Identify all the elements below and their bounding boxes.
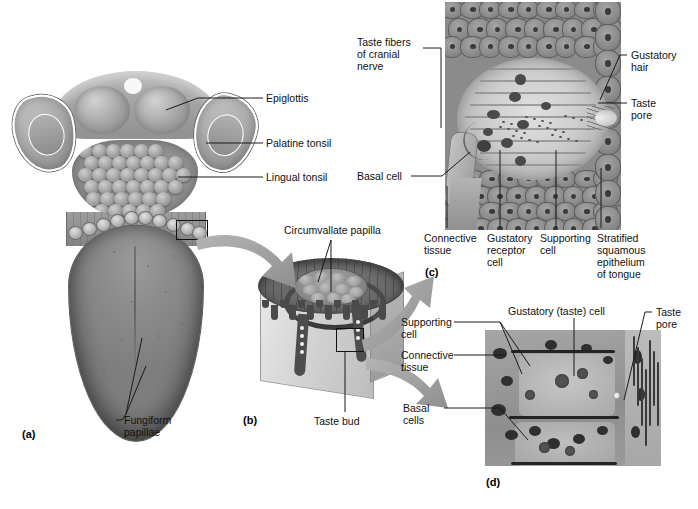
- taste-cell-boundary-0: [485, 68, 581, 70]
- papilla-surface-cell-0: [299, 275, 313, 285]
- palatine-tonsil-left-crypt: [24, 110, 69, 159]
- taste-cell-nucleus-0: [515, 74, 526, 85]
- epithelial-cell-col-7: [595, 180, 621, 207]
- epithelial-cell-col-2: [595, 50, 621, 77]
- micrograph-dark-nucleus-11: [545, 340, 557, 350]
- label-taste-bud: Taste bud: [314, 415, 360, 427]
- label-supporting-cell-d: Supporting cell: [401, 316, 452, 340]
- lingual-tonsil-follicle-27: [168, 180, 183, 194]
- taste-cell-boundary-1: [480, 80, 586, 82]
- micrograph-dark-nucleus-13: [603, 356, 613, 364]
- panel-a-region-of-interest-box: [176, 220, 208, 240]
- taste-bud-dot-0: [300, 326, 304, 330]
- cytoplasmic-granule-1: [510, 123, 513, 125]
- taste-pore-opening: [595, 110, 617, 126]
- label-basal-cell: Basal cell: [357, 170, 402, 182]
- epithelial-cell-col-6: [595, 154, 621, 181]
- epithelium-drip-4: [298, 300, 305, 308]
- circumvallate-papilla-2: [96, 218, 111, 232]
- circumvallate-papilla-6: [152, 214, 167, 228]
- basal-cell: [477, 140, 491, 152]
- taste-cell-nucleus-5: [515, 156, 526, 166]
- label-palatine-tonsil: Palatine tonsil: [266, 137, 331, 149]
- cytoplasmic-granule-9: [528, 139, 531, 141]
- micrograph-dark-nucleus-3: [505, 430, 518, 440]
- micrograph-fiber-1: [637, 347, 639, 406]
- panel-b-papilla-block: [250, 248, 410, 408]
- taste-bud-dot-1: [300, 334, 304, 338]
- micrograph-cell-nucleus-0: [555, 374, 569, 388]
- cytoplasmic-granule-18: [559, 136, 562, 138]
- cytoplasmic-granule-24: [551, 134, 554, 136]
- figure-canvas: Epiglottis Palatine tonsil Lingual tonsi…: [0, 0, 698, 509]
- papilla-surface-cell-6: [335, 284, 349, 294]
- epithelium-drip-7: [325, 305, 332, 320]
- label-lingual-tonsil: Lingual tonsil: [266, 171, 327, 183]
- micrograph-fiber-0: [633, 336, 635, 386]
- taste-bud-dot-2: [300, 342, 304, 346]
- papilla-surface-cell-2: [331, 273, 345, 283]
- epithelium-drip-2: [280, 300, 287, 308]
- circumvallate-papilla-1: [82, 222, 97, 236]
- micrograph-dark-nucleus-4: [529, 426, 541, 436]
- taste-bud-dot-3: [300, 350, 304, 354]
- epithelial-cell-col-8: [595, 206, 621, 230]
- label-taste-pore-c: Taste pore: [631, 97, 656, 121]
- label-gustatory-taste-cell: Gustatory (taste) cell: [508, 305, 605, 317]
- taste-cell-boundary-2: [475, 92, 591, 94]
- micrograph-cell-nucleus-2: [577, 368, 588, 379]
- taste-cell-nucleus-3: [517, 120, 529, 129]
- circumvallate-papilla-5: [138, 211, 153, 225]
- epithelium-drip-12: [370, 300, 377, 308]
- epithelium-drip-0: [262, 300, 269, 308]
- micrograph-dark-nucleus-1: [501, 376, 513, 386]
- micrograph-fiber-3: [645, 369, 647, 446]
- label-connective-tissue-c: Connective tissue: [424, 232, 477, 256]
- cytoplasmic-granule-7: [502, 121, 505, 123]
- panel-c-taste-bud-diagram: [445, 2, 621, 230]
- label-taste-fibers-of-cranial-nerve: Taste fibers of cranial nerve: [357, 36, 411, 72]
- cytoplasmic-granule-10: [541, 120, 544, 122]
- cytoplasmic-granule-14: [507, 128, 510, 130]
- micrograph-dark-nucleus-2: [491, 404, 506, 416]
- epithelium-drip-11: [361, 305, 368, 320]
- label-stratified-squamous-epithelium: Stratified squamous epithelium of tongue: [597, 232, 645, 280]
- micrograph-fiber-5: [653, 351, 655, 406]
- panel-id-b: (b): [243, 414, 257, 426]
- cytoplasmic-granule-15: [520, 137, 523, 139]
- epithelial-cell-col-1: [595, 24, 621, 51]
- panel-id-c: (c): [425, 266, 438, 278]
- connective-tissue-band: [446, 178, 481, 230]
- cytoplasmic-granule-17: [546, 127, 549, 129]
- circumvallate-papilla-3: [110, 214, 125, 228]
- epithelial-cell-60: [563, 218, 584, 230]
- epiglottis-lobe-left: [74, 86, 130, 134]
- circumvallate-papilla-4: [124, 211, 139, 225]
- micrograph-fiber-4: [649, 340, 651, 426]
- panel-b-region-of-interest-box: [336, 328, 364, 352]
- label-fungiform-papillae: Fungiform papillae: [124, 414, 171, 438]
- lingual-tonsil: [72, 140, 198, 218]
- taste-cell-boundary-8: [485, 164, 581, 166]
- epithelium-drip-9: [343, 305, 350, 320]
- circumvallate-papilla-0: [68, 226, 83, 240]
- taste-cell-boundary-3: [470, 104, 596, 106]
- cytoplasmic-granule-19: [572, 117, 575, 119]
- micrograph-cell-nucleus-1: [525, 390, 535, 400]
- papilla-surface-cell-3: [347, 276, 361, 286]
- label-gustatory-hair: Gustatory hair: [631, 49, 677, 73]
- micrograph-taste-pore-spot: [613, 392, 620, 399]
- label-connective-tissue-d: Connective tissue: [401, 349, 454, 373]
- label-epiglottis: Epiglottis: [266, 92, 309, 104]
- cytoplasmic-granule-11: [554, 129, 557, 131]
- cytoplasmic-granule-25: [564, 115, 567, 117]
- epithelium-drip-13: [379, 305, 386, 320]
- taste-bud-dot-4: [356, 320, 360, 324]
- epiglottis-lobe-right: [134, 86, 190, 134]
- cytoplasmic-granule-5: [562, 131, 565, 133]
- cytoplasmic-granule-12: [567, 138, 570, 140]
- label-gustatory-receptor-cell: Gustatory receptor cell: [487, 232, 533, 268]
- cytoplasmic-granule-23: [538, 125, 541, 127]
- panel-a-tongue-illustration: [8, 70, 258, 450]
- micrograph-dark-nucleus-0: [493, 348, 507, 359]
